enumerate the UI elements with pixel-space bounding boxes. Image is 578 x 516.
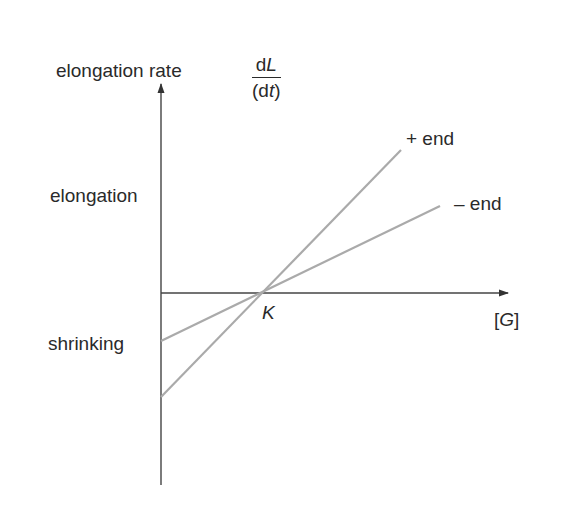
plus-end-line bbox=[161, 150, 401, 397]
x-close: ] bbox=[514, 309, 519, 330]
x-axis-label: [G] bbox=[494, 309, 519, 331]
x-var: G bbox=[499, 309, 514, 330]
frac-num-var: L bbox=[266, 54, 277, 75]
elongation-label: elongation bbox=[50, 185, 138, 207]
k-label: K bbox=[262, 302, 275, 324]
y-axis-title: elongation rate bbox=[56, 60, 182, 82]
shrinking-label: shrinking bbox=[48, 333, 124, 355]
frac-num-d: d bbox=[256, 54, 267, 75]
plus-end-label: + end bbox=[406, 128, 454, 150]
frac-den-close: ) bbox=[274, 80, 280, 101]
minus-end-label: – end bbox=[454, 193, 502, 215]
frac-den-open: (d bbox=[252, 80, 269, 101]
y-axis-fraction: dL (dt) bbox=[252, 55, 281, 100]
minus-end-line bbox=[161, 206, 440, 341]
